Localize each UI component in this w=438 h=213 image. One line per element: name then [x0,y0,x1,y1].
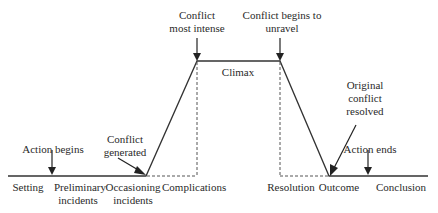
label-original-conflict-resolved: Original conflict resolved [340,79,390,118]
label-line: Conflict [100,133,150,146]
stage-preliminary-incidents: Preliminary incidents [54,181,102,207]
stage-resolution: Resolution [264,181,318,194]
conflict-unravel-arrowhead [276,53,284,61]
label-line: Original [340,79,390,92]
dashed-guides [147,62,329,176]
label-action-ends: Action ends [340,143,400,156]
label-conflict-generated: Conflict generated [100,133,150,159]
label-line: Conflict begins to [240,9,324,22]
label-conflict-begins-unravel: Conflict begins to unravel [240,9,324,35]
conflict-intense-arrowhead [193,53,201,61]
label-line: resolved [340,105,390,118]
label-line: unravel [240,22,324,35]
label-line: generated [100,146,150,159]
stage-complications: Complications [162,181,226,194]
action-ends-arrowhead [364,167,372,175]
label-action-begins: Action begins [18,143,88,156]
label-line: incidents [54,194,102,207]
conflict-generated-arrowhead [134,166,146,175]
label-line: Conflict [165,9,229,22]
label-line: conflict [340,92,390,105]
stage-occasioning-incidents: Occasioning incidents [105,181,161,207]
original-resolved-arrowhead [330,164,338,176]
stage-outcome: Outcome [318,181,360,194]
label-conflict-most-intense: Conflict most intense [165,9,229,35]
label-climax: Climax [218,66,258,79]
stage-setting: Setting [8,181,48,194]
stage-conclusion: Conclusion [375,181,427,194]
label-line: incidents [105,194,161,207]
label-line: most intense [165,22,229,35]
action-begins-arrowhead [48,167,56,175]
label-line: Preliminary [54,181,102,194]
label-line: Occasioning [105,181,161,194]
